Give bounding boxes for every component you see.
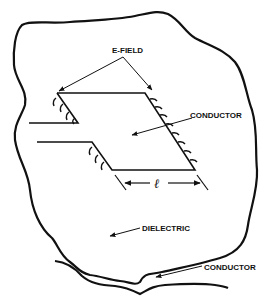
ground-conductor-line — [55, 261, 228, 294]
efield-fringe-right — [150, 99, 197, 162]
efield-fringe-left — [53, 98, 104, 170]
conductor-patch-label: CONDUCTOR — [190, 111, 242, 120]
diagram-canvas: E-FIELD CONDUCTOR ℓ DIELECTRIC CONDUCTOR — [0, 0, 270, 304]
conductor-ground-label: CONDUCTOR — [204, 263, 256, 272]
efield-label: E-FIELD — [112, 46, 143, 55]
length-dimension — [115, 175, 208, 190]
efield-leader-left — [59, 57, 123, 91]
dielectric-label: DIELECTRIC — [142, 224, 190, 233]
length-symbol: ℓ — [154, 176, 160, 191]
dielectric-leader — [110, 228, 140, 236]
efield-leader-right — [123, 57, 152, 90]
